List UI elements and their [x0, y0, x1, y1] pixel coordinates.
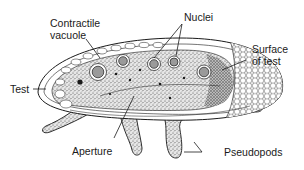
label-surface-of-test-line2: of test [252, 56, 288, 68]
label-test: Test [10, 84, 29, 95]
label-contractile-vacuole: Contractile vacuole [50, 18, 100, 41]
label-contractile-vacuole-line1: Contractile [50, 18, 100, 30]
label-nuclei: Nuclei [184, 12, 213, 23]
amoeba-diagram [0, 0, 304, 170]
label-pseudopods: Pseudopods [224, 147, 282, 158]
label-surface-of-test-line1: Surface [252, 44, 288, 56]
label-aperture: Aperture [72, 146, 112, 157]
label-contractile-vacuole-line2: vacuole [50, 30, 100, 42]
label-surface-of-test: Surface of test [252, 44, 288, 67]
